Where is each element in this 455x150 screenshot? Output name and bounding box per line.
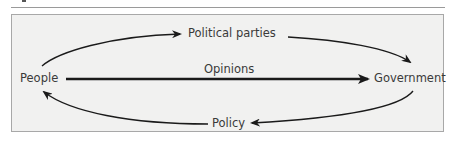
node-political-parties: Political parties [188,28,276,40]
arrow-government-to-policy [252,91,413,123]
edge-label-opinions: Opinions [204,64,254,76]
arrow-people-to-parties [42,34,180,66]
arrow-policy-to-people [44,92,208,124]
arrow-parties-to-government [288,37,410,62]
node-policy: Policy [212,118,245,130]
node-government: Government [374,73,446,85]
node-people: People [20,73,58,85]
